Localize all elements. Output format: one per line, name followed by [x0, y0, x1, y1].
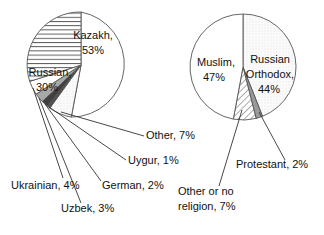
right-pie-leaders	[219, 110, 285, 186]
label-russian-orthodox-line3: 44%	[258, 83, 280, 95]
callout-ukrainian: Ukrainian, 4%	[11, 179, 80, 191]
leader-protestant	[259, 112, 285, 160]
callout-other: Other, 7%	[146, 129, 195, 141]
callout-german: German, 2%	[102, 179, 164, 191]
label-kazakh-line2: 53%	[82, 44, 104, 56]
label-kazakh-line1: Kazakh,	[73, 29, 113, 41]
callout-other-or-no-religion-line2: religion, 7%	[178, 200, 236, 212]
label-russian-line2: 30%	[36, 81, 58, 93]
label-muslim-line1: Muslim,	[197, 56, 235, 68]
callout-uygur: Uygur, 1%	[128, 154, 179, 166]
chart-canvas: Kazakh, 53% Russian, 30% Other, 7% Uygur…	[0, 0, 324, 235]
left-pie-slices	[27, 12, 124, 117]
label-russian-line1: Russian,	[29, 66, 72, 78]
label-russian-orthodox-line1: Russian	[250, 53, 290, 65]
label-muslim-line2: 47%	[203, 71, 225, 83]
label-russian-orthodox-line2: Orthodox,	[246, 68, 294, 80]
callout-other-or-no-religion-line1: Other or no	[178, 185, 234, 197]
pie-chart-figure: Kazakh, 53% Russian, 30% Other, 7% Uygur…	[0, 0, 324, 235]
leader-other-or-no-religion	[219, 110, 242, 186]
callout-protestant: Protestant, 2%	[236, 158, 308, 170]
callout-uzbek: Uzbek, 3%	[61, 202, 114, 214]
